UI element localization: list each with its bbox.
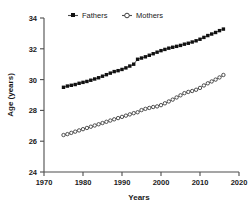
data-point	[144, 107, 147, 110]
data-point	[81, 127, 84, 130]
data-point	[74, 83, 77, 86]
data-point	[93, 77, 96, 80]
data-point	[187, 42, 190, 45]
data-point	[194, 88, 197, 91]
data-point	[183, 42, 186, 45]
data-point	[159, 49, 162, 52]
data-point	[210, 32, 213, 35]
data-point	[97, 76, 100, 79]
data-point	[113, 118, 116, 121]
data-point	[222, 27, 225, 30]
data-point	[66, 84, 69, 87]
x-tick-label-1970: 1970	[36, 178, 53, 187]
data-point	[175, 45, 178, 48]
data-point	[77, 82, 80, 85]
data-point	[116, 116, 119, 119]
data-point	[120, 115, 123, 118]
data-point	[175, 96, 178, 99]
data-point	[202, 36, 205, 39]
data-point	[218, 76, 221, 79]
y-tick-label-26: 26	[29, 137, 37, 146]
data-point	[93, 124, 96, 127]
data-point	[136, 111, 139, 114]
data-point	[183, 91, 186, 94]
data-point	[214, 31, 217, 34]
data-point	[144, 55, 147, 58]
y-tick-label-32: 32	[29, 45, 37, 54]
data-point	[148, 54, 151, 57]
x-axis-title: Years	[128, 193, 150, 202]
legend-label-mothers: Mothers	[136, 11, 163, 20]
x-tick-label-2020: 2020	[231, 178, 248, 187]
data-point	[171, 98, 174, 101]
data-point	[159, 103, 162, 106]
data-point	[128, 113, 131, 116]
data-point	[85, 80, 88, 83]
open-circle-marker-icon	[125, 13, 130, 18]
data-point	[218, 29, 221, 32]
data-point	[222, 73, 225, 76]
chart-background	[0, 0, 249, 206]
data-point	[101, 121, 104, 124]
data-point	[85, 126, 88, 129]
parental-age-line-chart: 34 32 30 28 26 24 1970 1980 1990 2000 20…	[0, 0, 249, 206]
data-point	[113, 70, 116, 73]
data-point	[179, 94, 182, 97]
data-point	[140, 108, 143, 111]
data-point	[70, 131, 73, 134]
legend-label-fathers: Fathers	[82, 11, 108, 20]
data-point	[89, 125, 92, 128]
data-point	[152, 105, 155, 108]
data-point	[128, 64, 131, 67]
x-tick-label-2010: 2010	[192, 178, 209, 187]
data-point	[206, 34, 209, 37]
data-point	[191, 40, 194, 43]
data-point	[101, 75, 104, 78]
filled-square-marker-icon	[71, 13, 75, 17]
data-point	[198, 86, 201, 89]
data-point	[97, 123, 100, 126]
data-point	[62, 133, 65, 136]
data-point	[120, 68, 123, 71]
y-tick-label-30: 30	[29, 76, 37, 85]
data-point	[70, 84, 73, 87]
y-tick-label-24: 24	[29, 168, 38, 177]
data-point	[155, 105, 158, 108]
data-point	[105, 73, 108, 76]
data-point	[62, 86, 65, 89]
data-point	[171, 46, 174, 49]
data-point	[167, 100, 170, 103]
data-point	[109, 71, 112, 74]
x-tick-label-2000: 2000	[153, 178, 170, 187]
data-point	[214, 78, 217, 81]
data-point	[194, 39, 197, 42]
data-point	[66, 132, 69, 135]
y-axis-title: Age (years)	[6, 73, 15, 117]
data-point	[167, 46, 170, 49]
data-point	[140, 56, 143, 59]
data-point	[210, 80, 213, 83]
data-point	[109, 119, 112, 122]
data-point	[132, 111, 135, 114]
data-point	[198, 38, 201, 41]
data-point	[124, 66, 127, 69]
y-tick-label-34: 34	[29, 14, 38, 23]
data-point	[116, 69, 119, 72]
data-point	[152, 52, 155, 55]
data-point	[163, 48, 166, 51]
data-point	[179, 44, 182, 47]
data-point	[163, 102, 166, 105]
data-point	[74, 130, 77, 133]
data-point	[81, 81, 84, 84]
data-point	[132, 63, 135, 66]
data-point	[136, 58, 139, 61]
data-point	[187, 90, 190, 93]
data-point	[77, 129, 80, 132]
data-point	[89, 79, 92, 82]
data-point	[124, 114, 127, 117]
data-point	[155, 50, 158, 53]
data-point	[105, 120, 108, 123]
x-tick-label-1990: 1990	[114, 178, 131, 187]
data-point	[191, 89, 194, 92]
data-point	[202, 84, 205, 87]
